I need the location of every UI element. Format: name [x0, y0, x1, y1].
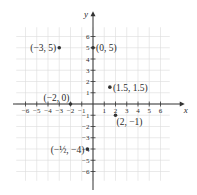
- y-tick-label: −1: [82, 112, 90, 120]
- y-tick-label: −6: [82, 168, 90, 176]
- x-tick-label: 1: [103, 107, 107, 115]
- y-tick-label: 4: [86, 56, 90, 64]
- x-tick-label: 4: [136, 107, 140, 115]
- data-point: [86, 147, 90, 151]
- data-point: [108, 85, 112, 89]
- data-point-label: (2, −1): [117, 117, 143, 128]
- y-tick-label: 1: [86, 89, 90, 97]
- data-point-label: (1.5, 1.5): [113, 83, 148, 94]
- data-point-label: (0, 5): [96, 43, 117, 54]
- x-tick-label: −4: [44, 107, 52, 115]
- x-tick-label: −2: [67, 107, 75, 115]
- y-tick-label: −5: [82, 157, 90, 165]
- x-tick-label: −3: [56, 107, 64, 115]
- y-tick-label: 6: [86, 33, 90, 41]
- x-tick-label: 5: [148, 107, 152, 115]
- x-tick-label: −6: [22, 107, 30, 115]
- y-tick-label: 2: [86, 78, 90, 86]
- y-axis-arrow-icon: [91, 11, 96, 16]
- x-tick-label: 6: [159, 107, 163, 115]
- data-point: [91, 46, 95, 50]
- coordinate-plane-chart: xy −6−5−4−3−2−1123456−6−5−4−3−2−1123456 …: [0, 0, 197, 195]
- y-tick-label: 3: [86, 67, 90, 75]
- x-axis-label: x: [183, 105, 188, 115]
- x-tick-label: −5: [33, 107, 41, 115]
- y-tick-label: −2: [82, 123, 90, 131]
- data-point-label: (−2, 0): [44, 93, 70, 104]
- y-tick-label: 5: [86, 44, 90, 52]
- x-tick-label: 3: [125, 107, 129, 115]
- data-point: [57, 46, 61, 50]
- data-point-label: (−½, −4): [51, 145, 85, 156]
- data-point-label: (−3, 5): [30, 43, 56, 54]
- y-axis-label: y: [83, 9, 88, 19]
- y-tick-label: −3: [82, 134, 90, 142]
